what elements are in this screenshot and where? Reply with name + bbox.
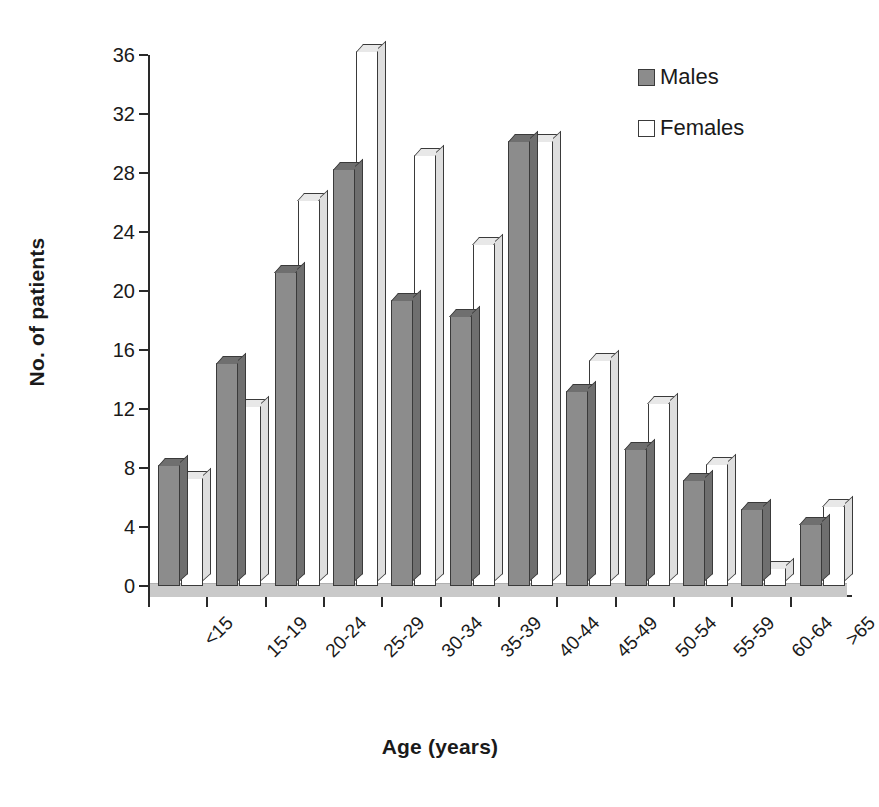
bar-male [275, 272, 297, 586]
y-tick-label: 12 [113, 398, 135, 421]
legend-label: Females [660, 115, 744, 141]
y-tick-label: 24 [113, 221, 135, 244]
bar-group [388, 55, 446, 586]
x-tick-mark [206, 597, 208, 607]
y-tick-label: 20 [113, 280, 135, 303]
x-tick-label: 45-49 [613, 612, 663, 662]
y-tick-mark [139, 408, 148, 410]
legend-label: Males [660, 64, 719, 90]
x-tick-label: 15-19 [263, 612, 313, 662]
y-tick-mark [139, 172, 148, 174]
bar-male [741, 509, 763, 586]
bar-side-face [822, 514, 830, 581]
x-tick-mark [731, 597, 733, 607]
bar-male [333, 169, 355, 586]
bar-side-face [378, 40, 386, 581]
bar-side-face [588, 381, 596, 581]
x-tick-label: 50-54 [671, 612, 721, 662]
bar-side-face [355, 158, 363, 581]
bar-side-face [261, 396, 269, 581]
y-tick-mark [139, 231, 148, 233]
bar-side-face [553, 130, 561, 581]
bar-side-face [530, 130, 538, 581]
y-tick-mark [139, 467, 148, 469]
y-tick-label: 16 [113, 339, 135, 362]
bar-side-face [495, 234, 503, 581]
x-tick-label: >65 [841, 612, 879, 650]
bar-male [800, 524, 822, 586]
x-tick-mark [673, 597, 675, 607]
y-tick-label: 32 [113, 103, 135, 126]
y-tick-label: 4 [124, 516, 135, 539]
y-tick-label: 8 [124, 457, 135, 480]
x-tick-label: <15 [199, 612, 237, 650]
x-tick-mark [615, 597, 617, 607]
bar-side-face [670, 393, 678, 581]
y-tick-label: 36 [113, 44, 135, 67]
y-tick-mark [139, 585, 148, 587]
bar-side-face [320, 189, 328, 581]
x-tick-mark [265, 597, 267, 607]
x-tick-mark [556, 597, 558, 607]
bar-side-face [647, 439, 655, 581]
bar-side-face [472, 306, 480, 581]
bar-side-face [413, 290, 421, 581]
x-tick-label: 30-34 [438, 612, 488, 662]
bar-male [391, 300, 413, 586]
chart-legend: MalesFemales [638, 64, 744, 166]
x-tick-mark [440, 597, 442, 607]
bar-male [158, 465, 180, 586]
bar-side-face [763, 499, 771, 581]
x-axis-title: Age (years) [130, 735, 750, 759]
y-axis-line [148, 55, 150, 597]
x-tick-label: 20-24 [321, 612, 371, 662]
bar-male [216, 363, 238, 586]
x-tick-mark [148, 597, 150, 607]
bar-side-face [845, 496, 853, 581]
y-tick-mark [139, 113, 148, 115]
legend-entry: Females [638, 115, 744, 141]
y-tick-label: 28 [113, 162, 135, 185]
bar-side-face [238, 353, 246, 581]
bar-group [505, 55, 563, 586]
bar-side-face [203, 468, 211, 581]
bar-group [738, 55, 796, 586]
y-tick-mark [139, 290, 148, 292]
bar-side-face [436, 145, 444, 581]
bar-male [450, 316, 472, 586]
bar-group [447, 55, 505, 586]
x-tick-label: 35-39 [496, 612, 546, 662]
bar-group [272, 55, 330, 586]
bar-male [566, 391, 588, 586]
bar-group [797, 55, 855, 586]
bar-male [683, 480, 705, 586]
bar-group [330, 55, 388, 586]
y-tick-mark [139, 54, 148, 56]
x-tick-label: 60-64 [788, 612, 838, 662]
x-tick-label: 55-59 [729, 612, 779, 662]
bar-side-face [728, 453, 736, 581]
bar-group [155, 55, 213, 586]
bar-male [508, 141, 530, 586]
x-tick-mark [790, 597, 792, 607]
legend-swatch-icon [638, 69, 655, 86]
bar-side-face [297, 262, 305, 581]
y-tick-mark [139, 526, 148, 528]
bar-side-face [611, 350, 619, 581]
x-tick-mark [381, 597, 383, 607]
bar-group [213, 55, 271, 586]
bar-side-face [705, 470, 713, 581]
x-tick-label: 25-29 [379, 612, 429, 662]
legend-entry: Males [638, 64, 744, 90]
y-tick-label: 0 [124, 575, 135, 598]
bar-male [625, 449, 647, 586]
bar-group [563, 55, 621, 586]
legend-swatch-icon [638, 120, 655, 137]
x-tick-mark [498, 597, 500, 607]
y-tick-mark [139, 349, 148, 351]
y-axis-title: No. of patients [25, 217, 49, 407]
x-tick-label: 40-44 [554, 612, 604, 662]
x-tick-mark [323, 597, 325, 607]
bar-side-face [180, 455, 188, 581]
